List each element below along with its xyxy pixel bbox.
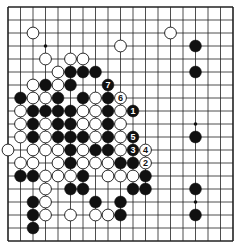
stone-white [90, 209, 102, 221]
stone-white [40, 118, 52, 130]
stone-white [65, 170, 77, 182]
stone-black [127, 157, 139, 169]
stone-white [102, 170, 114, 182]
go-board: 7615342 [0, 0, 237, 248]
stone-black [65, 144, 77, 156]
stone-black [52, 105, 64, 117]
stone-black [52, 92, 64, 104]
stone-black [65, 66, 77, 78]
stone-white [77, 157, 89, 169]
stone-black [65, 157, 77, 169]
stone-black [52, 131, 64, 143]
stone-black [77, 131, 89, 143]
stone-black [65, 131, 77, 143]
stone-white [65, 170, 77, 182]
stone-black [65, 157, 77, 169]
stone-white [40, 170, 52, 182]
stone-white [115, 144, 127, 156]
stone-black [65, 79, 77, 91]
stone-black [52, 92, 64, 104]
stone-black [102, 131, 114, 143]
stone-black [190, 131, 202, 143]
stone-white [15, 105, 27, 117]
stone-white [115, 170, 127, 182]
stone-white [115, 118, 127, 130]
move-number-label: 5 [130, 132, 135, 142]
move-number-label: 4 [143, 145, 148, 155]
stone-white [102, 170, 114, 182]
stone-black [90, 66, 102, 78]
stone-white [27, 144, 39, 156]
stone-black [27, 196, 39, 208]
stone-white [90, 118, 102, 130]
stone-white [40, 144, 52, 156]
stone-black [115, 209, 127, 221]
numbered-stone-black: 7 [102, 79, 114, 91]
stone-black [52, 118, 64, 130]
stone-black [115, 196, 127, 208]
stone-white [40, 131, 52, 143]
stone-black [27, 209, 39, 221]
stone-white [127, 170, 139, 182]
stone-white [27, 92, 39, 104]
stone-white [40, 209, 52, 221]
stone-white [115, 131, 127, 143]
stone-white [102, 209, 114, 221]
stone-white [27, 79, 39, 91]
stone-white [40, 183, 52, 195]
star-point [44, 44, 48, 48]
stone-black [190, 209, 202, 221]
stone-white [52, 79, 64, 91]
stone-white [65, 53, 77, 65]
stone-white [90, 209, 102, 221]
stone-white [90, 157, 102, 169]
stone-black [190, 40, 202, 52]
stone-black [65, 144, 77, 156]
numbered-stone-black: 3 [127, 144, 139, 156]
stone-white [165, 27, 177, 39]
stone-white [65, 209, 77, 221]
stone-white [90, 118, 102, 130]
stone-black [140, 183, 152, 195]
stone-white [40, 170, 52, 182]
stone-white [127, 170, 139, 182]
stone-black [77, 66, 89, 78]
stone-black [190, 183, 202, 195]
stone-black [27, 222, 39, 234]
stone-white [77, 144, 89, 156]
star-point [194, 200, 198, 204]
move-number-label: 7 [105, 80, 110, 90]
stone-black [127, 183, 139, 195]
stone-black [90, 66, 102, 78]
stone-black [90, 196, 102, 208]
stone-black [27, 196, 39, 208]
stone-white [65, 209, 77, 221]
stone-white [90, 157, 102, 169]
stone-white [77, 105, 89, 117]
stone-black [65, 183, 77, 195]
stone-black [190, 183, 202, 195]
stone-white [27, 27, 39, 39]
stone-black [190, 40, 202, 52]
stone-white [115, 40, 127, 52]
stone-black [65, 118, 77, 130]
stone-black [127, 157, 139, 169]
stone-white [15, 118, 27, 130]
stone-black [190, 209, 202, 221]
stone-white [27, 157, 39, 169]
stone-black [77, 183, 89, 195]
stone-white [15, 118, 27, 130]
stone-black [115, 196, 127, 208]
numbered-stone-black: 5 [127, 131, 139, 143]
stone-black [115, 157, 127, 169]
stone-white [40, 53, 52, 65]
stone-white [52, 66, 64, 78]
stone-black [140, 183, 152, 195]
stone-white [2, 144, 14, 156]
stone-black [140, 170, 152, 182]
stone-black [127, 183, 139, 195]
stone-black [65, 183, 77, 195]
stone-white [77, 144, 89, 156]
stone-white [102, 157, 114, 169]
stone-black [15, 92, 27, 104]
